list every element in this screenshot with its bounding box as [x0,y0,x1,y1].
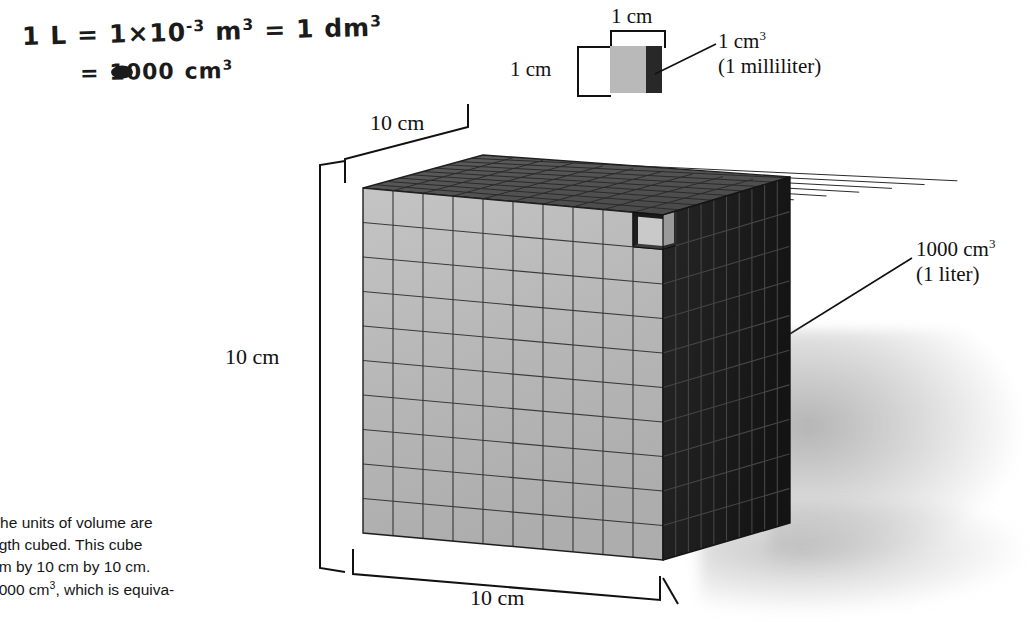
big-cube-bottom-bracket-tail [663,578,678,604]
big-cube-left-bracket [320,161,345,572]
big-cube-front-face [363,188,663,560]
caption-line-4: s 1000 cm3, which is equiva- [0,578,278,601]
caption-line-2: length cubed. This cube [0,534,278,556]
big-cube-right-face [663,177,790,560]
big-cube-callout: 1000 cm3 (1 liter) [916,236,995,287]
big-cube-left-dimension-label: 10 cm [225,344,279,370]
caption-line-3: 0 cm by 10 cm by 10 cm. [0,556,278,578]
big-cube-removed-unit-notch [633,211,676,249]
big-cube-bottom-dimension-label: 10 cm [470,585,524,611]
big-cube-callout-line-1: 1000 cm3 [916,236,995,262]
caption-line-1: 5 The units of volume are [0,512,278,534]
big-cube-callout-line-2: (1 liter) [916,262,995,287]
figure-caption: 5 The units of volume are length cubed. … [0,512,278,601]
big-cube-top-dimension-label: 10 cm [370,110,424,136]
